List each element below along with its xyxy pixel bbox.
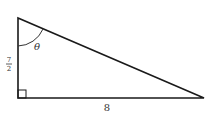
right-angle-marker	[18, 90, 26, 98]
side-label-base: 8	[104, 102, 110, 113]
side-label-numerator: 7	[7, 56, 11, 64]
right-triangle	[18, 18, 204, 98]
side-label-denominator: 2	[7, 65, 11, 73]
angle-label-theta: θ	[34, 41, 40, 52]
triangle-diagram: θ 7 2 8	[0, 0, 211, 117]
